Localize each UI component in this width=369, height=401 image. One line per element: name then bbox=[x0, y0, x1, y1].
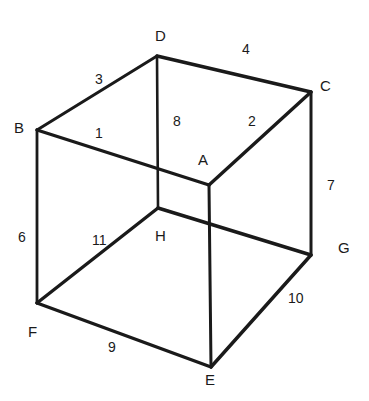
vertex-label-B: B bbox=[14, 120, 24, 135]
edge-label-11: 11 bbox=[92, 233, 107, 247]
vertex-label-H: H bbox=[155, 228, 166, 243]
edge-D-C bbox=[157, 56, 311, 92]
edge-B-D bbox=[37, 56, 157, 130]
edge-A-C bbox=[209, 92, 311, 185]
edge-label-2: 2 bbox=[248, 114, 256, 128]
vertex-label-G: G bbox=[338, 240, 350, 255]
edge-label-1: 1 bbox=[95, 126, 103, 140]
edge-D-H bbox=[157, 56, 158, 208]
edge-label-6: 6 bbox=[18, 230, 26, 244]
edge-B-A bbox=[37, 130, 209, 185]
edge-label-3: 3 bbox=[95, 72, 103, 86]
cube-wireframe bbox=[0, 0, 369, 401]
edge-A-E bbox=[209, 185, 211, 367]
edge-E-G bbox=[211, 255, 311, 367]
cube-diagram: D C B A H G F E 3 4 1 8 2 7 6 11 10 9 bbox=[0, 0, 369, 401]
vertex-label-E: E bbox=[205, 372, 215, 387]
edge-label-9: 9 bbox=[108, 340, 116, 354]
vertex-label-C: C bbox=[320, 78, 331, 93]
edge-H-F bbox=[37, 208, 158, 303]
vertex-label-D: D bbox=[155, 28, 166, 43]
edge-H-G bbox=[158, 208, 311, 255]
edge-F-E bbox=[37, 303, 211, 367]
edge-label-10: 10 bbox=[288, 291, 304, 305]
vertex-label-F: F bbox=[28, 324, 37, 339]
vertex-label-A: A bbox=[198, 152, 208, 167]
edge-label-4: 4 bbox=[242, 42, 250, 56]
edge-label-7: 7 bbox=[327, 178, 335, 192]
edge-label-8: 8 bbox=[173, 114, 181, 128]
